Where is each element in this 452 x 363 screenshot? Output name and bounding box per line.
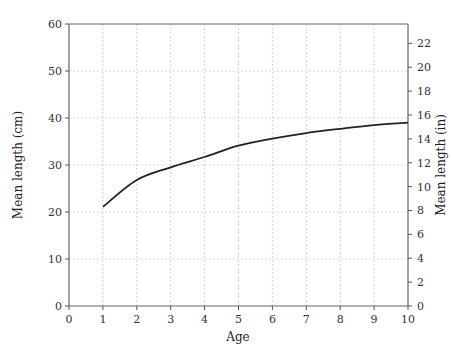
x-tick-label: 3 [167, 313, 174, 326]
y-right-tick-label: 12 [417, 157, 431, 170]
x-tick-label: 0 [66, 313, 73, 326]
y-right-tick-label: 6 [417, 228, 424, 241]
x-axis-ticks: 012345678910 [66, 306, 416, 326]
y-right-tick-label: 8 [417, 204, 424, 217]
y-right-tick-label: 22 [417, 37, 431, 50]
x-tick-label: 10 [401, 313, 415, 326]
y-right-tick-label: 20 [417, 61, 431, 74]
grid-lines [69, 24, 408, 306]
y-tick-label: 30 [48, 159, 62, 172]
y-axis-ticks-right: 0246810121416182022 [408, 37, 431, 313]
y-tick-label: 0 [55, 300, 62, 313]
x-tick-label: 9 [371, 313, 378, 326]
x-axis-title: Age [225, 330, 249, 344]
y-right-tick-label: 18 [417, 85, 431, 98]
x-tick-label: 7 [303, 313, 310, 326]
y-right-tick-label: 10 [417, 181, 431, 194]
x-tick-label: 5 [235, 313, 242, 326]
y-axis-ticks-left: 0102030405060 [48, 18, 69, 313]
y-tick-label: 40 [48, 112, 62, 125]
y-tick-label: 50 [48, 65, 62, 78]
y-axis-title-left: Mean length (cm) [11, 111, 25, 219]
x-tick-label: 6 [269, 313, 276, 326]
x-tick-label: 1 [99, 313, 106, 326]
y-right-tick-label: 14 [417, 133, 431, 146]
y-right-tick-label: 16 [417, 109, 431, 122]
y-axis-title-right: Mean length (in) [434, 114, 448, 216]
line-chart: 012345678910 0102030405060 0246810121416… [0, 0, 452, 363]
y-right-tick-label: 4 [417, 252, 424, 265]
y-right-tick-label: 2 [417, 276, 424, 289]
x-tick-label: 8 [337, 313, 344, 326]
y-tick-label: 60 [48, 18, 62, 31]
y-right-tick-label: 0 [417, 300, 424, 313]
x-tick-label: 2 [133, 313, 140, 326]
y-tick-label: 20 [48, 206, 62, 219]
x-tick-label: 4 [201, 313, 208, 326]
y-tick-label: 10 [48, 253, 62, 266]
